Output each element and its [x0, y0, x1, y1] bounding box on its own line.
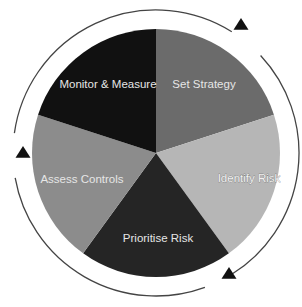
slice-label-identify-risk: Identify Risk [218, 172, 281, 184]
arrow-to-set-strategy-icon [234, 18, 249, 30]
slice-label-assess-controls: Assess Controls [40, 173, 123, 185]
arrow-to-monitor-measure-icon [16, 146, 31, 158]
risk-cycle-diagram: Set StrategyIdentify RiskPrioritise Risk… [0, 0, 302, 307]
slice-label-monitor-measure: Monitor & Measure [59, 78, 156, 90]
slice-label-set-strategy: Set Strategy [172, 78, 236, 90]
slice-label-prioritise-risk: Prioritise Risk [123, 232, 194, 244]
